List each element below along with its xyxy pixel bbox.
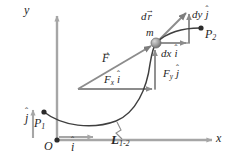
force-x-unit-base: i [117,74,120,85]
unit-vector-j-label: j ˆ [25,112,28,124]
displacement-dx-label: dx i ˆ [161,48,177,59]
script-l-glyph: L [111,132,119,147]
displacement-dy-base: y [198,8,203,20]
point-p2-subscript: 2 [212,33,216,42]
unit-vector-i-label: i ˆ [71,141,74,153]
force-x-subscript: x [111,79,114,87]
point-p1-subscript: 1 [41,122,45,131]
displacement-dx-unit-base: i [174,48,177,59]
force-resultant-base: F [102,52,109,64]
force-resultant-label: F → [102,52,109,64]
origin-label: O [44,140,53,152]
displacement-dr-d: d [141,10,147,22]
mass-particle [151,38,161,48]
point-p1-label: P1 [34,117,45,129]
mass-label: m [146,28,154,39]
unit-vector-i-base: i [71,141,74,153]
force-y-unit-base: j [176,68,179,79]
force-x-base: F [104,73,111,85]
point-p2-dot [198,25,203,30]
displacement-dy-unit-base: j [205,9,208,20]
displacement-dy-label: dy j ˆ [192,9,208,20]
origin-dot [54,137,59,142]
force-y-subscript: y [170,73,173,81]
x-axis-label: x [216,132,221,144]
point-p2-label: P2 [205,28,216,40]
path-label-subscript: 1-2 [119,139,130,148]
point-p1-dot [41,109,46,114]
unit-vector-j-base: j [25,112,28,124]
path-label: L1-2 [111,131,130,147]
force-y-base: F [163,67,170,79]
displacement-dr-label: d r → [141,11,152,22]
force-y-component-label: Fy j ˆ [163,68,179,79]
y-axis-label: y [24,4,29,16]
displacement-dr-base: r [148,11,152,22]
vector-force-path-diagram: y x O j ˆ i ˆ P1 P2 m L1-2 F → Fx [0,0,235,158]
displacement-dx-base: x [167,47,172,59]
force-x-component-label: Fx i ˆ [104,74,120,85]
trajectory-curve [44,43,156,126]
